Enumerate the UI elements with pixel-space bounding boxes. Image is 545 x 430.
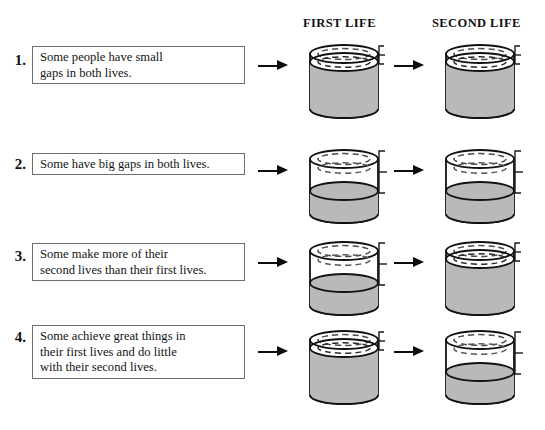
arrow-to-second-life [394, 60, 424, 71]
arrow-head [277, 60, 288, 70]
gap-bracket-second-life [513, 241, 523, 263]
gap-bracket-second-life [513, 330, 525, 376]
gap-bracket-first-life [377, 330, 387, 352]
diagram-row: 4. Some achieve great things in their fi… [0, 325, 545, 425]
arrow-to-second-life [394, 165, 424, 176]
column-header-second-life: SECOND LIFE [432, 16, 521, 31]
gap-bracket-first-life [377, 241, 389, 287]
arrow-to-first-life [258, 165, 288, 176]
row-number: 2. [0, 156, 26, 173]
arrow-head [413, 165, 424, 175]
statement-line: Some make more of their [40, 247, 238, 263]
arrow-to-first-life [258, 60, 288, 71]
cylinder-first-life [309, 329, 379, 409]
two-lives-diagram: FIRST LIFE SECOND LIFE 1. Some people ha… [0, 0, 545, 430]
arrow-to-first-life [258, 346, 288, 357]
statement-line: Some have big gaps in both lives. [40, 157, 238, 173]
arrow-head [413, 346, 424, 356]
cylinder-second-life [445, 148, 515, 228]
gap-bracket-first-life [377, 149, 389, 195]
cylinder-second-life [445, 329, 515, 409]
cylinder-first-life [309, 240, 379, 320]
gap-bracket-first-life [377, 44, 387, 66]
row-number: 4. [0, 329, 26, 346]
gap-bracket-second-life [513, 149, 525, 195]
cylinder-second-life [445, 43, 515, 123]
statement-line: Some achieve great things in [40, 329, 238, 345]
cylinder-first-life [309, 43, 379, 123]
diagram-row: 1. Some people have small gaps in both l… [0, 40, 545, 135]
statement-line: Some people have small [40, 50, 238, 66]
cylinder-second-life [445, 240, 515, 320]
row-number: 1. [0, 52, 26, 69]
column-header-first-life: FIRST LIFE [303, 16, 376, 31]
arrow-head [277, 165, 288, 175]
arrow-to-second-life [394, 346, 424, 357]
statement-box: Some people have small gaps in both live… [32, 46, 245, 84]
cylinder-first-life [309, 148, 379, 228]
statement-box: Some make more of their second lives tha… [32, 243, 245, 281]
diagram-row: 2. Some have big gaps in both lives. [0, 140, 545, 230]
statement-line: gaps in both lives. [40, 66, 238, 82]
arrow-head [277, 257, 288, 267]
statement-box: Some achieve great things in their first… [32, 325, 245, 379]
statement-line: their first lives and do little [40, 345, 238, 361]
diagram-row: 3. Some make more of their second lives … [0, 235, 545, 325]
arrow-head [277, 346, 288, 356]
gap-bracket-second-life [513, 44, 523, 66]
row-number: 3. [0, 248, 26, 265]
arrow-head [413, 60, 424, 70]
arrow-head [413, 257, 424, 267]
arrow-to-first-life [258, 257, 288, 268]
statement-line: second lives than their first lives. [40, 263, 238, 279]
statement-box: Some have big gaps in both lives. [32, 153, 245, 175]
arrow-to-second-life [394, 257, 424, 268]
statement-line: with their second lives. [40, 360, 238, 376]
